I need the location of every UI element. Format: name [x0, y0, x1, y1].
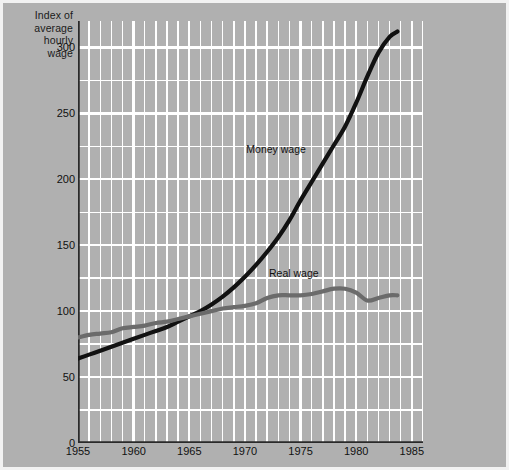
y-tick-300: 300	[35, 41, 75, 53]
plot-area	[78, 21, 423, 443]
x-tick-1985: 1985	[400, 445, 424, 457]
series-label-money-wage: Money wage	[246, 143, 306, 155]
x-axis-tick-labels: 1955196019651970197519801985	[78, 445, 438, 465]
x-tick-1970: 1970	[233, 445, 257, 457]
y-tick-50: 50	[35, 371, 75, 383]
y-axis-tick-labels: 300250200150100500	[31, 21, 75, 443]
y-tick-250: 250	[35, 107, 75, 119]
x-tick-1965: 1965	[177, 445, 201, 457]
x-tick-1955: 1955	[66, 445, 90, 457]
y-tick-150: 150	[35, 239, 75, 251]
x-tick-1980: 1980	[344, 445, 368, 457]
series-label-real-wage: Real wage	[269, 267, 319, 279]
x-tick-1975: 1975	[288, 445, 312, 457]
x-tick-1960: 1960	[121, 445, 145, 457]
series-line-real-wage	[78, 288, 397, 337]
plot-wrapper	[78, 21, 423, 443]
chart-svg	[78, 21, 423, 443]
chart-figure: Index of average hourly wage 30025020015…	[0, 0, 509, 470]
y-tick-200: 200	[35, 173, 75, 185]
y-tick-100: 100	[35, 305, 75, 317]
